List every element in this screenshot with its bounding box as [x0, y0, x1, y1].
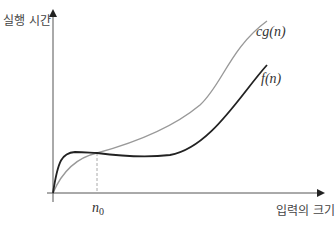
cg-curve — [53, 21, 267, 193]
cg-label: cg(n) — [256, 24, 286, 40]
n0-label: n0 — [92, 200, 104, 217]
y-axis-label: 실행 시간 — [3, 13, 51, 28]
f-label: f(n) — [261, 71, 282, 87]
f-curve — [53, 65, 267, 193]
diagram-canvas: 실행 시간 입력의 크기 cg(n) f(n) n0 — [0, 0, 336, 225]
x-axis-label: 입력의 크기 — [276, 204, 335, 218]
